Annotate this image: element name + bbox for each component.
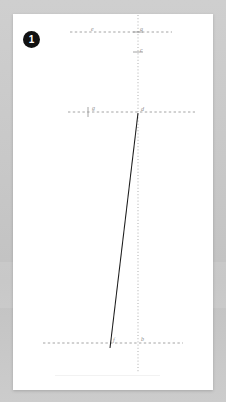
geometry-diagram [13,14,213,390]
point-label-g: g [92,105,95,111]
footer-divider [55,375,160,376]
page-background: 1 a c e g d f b [0,0,226,402]
point-label-f: f [113,337,115,343]
point-label-a: a [140,26,143,32]
figure-card: 1 a c e g d f b [13,14,213,390]
point-label-b: b [141,336,144,342]
point-label-c: c [140,47,143,53]
point-label-e: e [91,26,94,32]
segment-d-f [110,113,138,348]
point-label-d: d [141,106,144,112]
